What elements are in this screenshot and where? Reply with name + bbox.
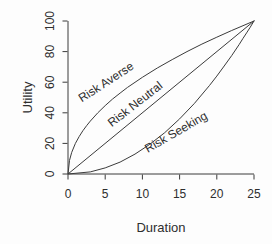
x-tick-label: 5 (102, 187, 109, 201)
y-tick-label: 40 (43, 106, 57, 120)
curve-label-risk-neutral: Risk Neutral (105, 78, 165, 129)
chart-canvas: 0510152025020406080100DurationUtilityRis… (0, 0, 272, 244)
x-tick-label: 20 (210, 187, 224, 201)
x-tick-label: 25 (247, 187, 261, 201)
x-axis-title: Duration (136, 220, 185, 235)
y-tick-label: 0 (43, 170, 57, 177)
curve-label-risk-averse: Risk Averse (76, 59, 137, 105)
x-tick-label: 0 (65, 187, 72, 201)
y-tick-label: 60 (43, 75, 57, 89)
y-tick-label: 80 (43, 45, 57, 59)
y-tick-label: 20 (43, 136, 57, 150)
curve-risk-neutral (68, 21, 254, 174)
utility-vs-duration-chart: 0510152025020406080100DurationUtilityRis… (0, 0, 272, 244)
x-tick-label: 10 (136, 187, 150, 201)
curve-label-risk-seeking: Risk Seeking (142, 109, 210, 156)
y-axis-title: Utility (20, 81, 35, 113)
x-tick-label: 15 (173, 187, 187, 201)
y-tick-label: 100 (43, 11, 57, 31)
